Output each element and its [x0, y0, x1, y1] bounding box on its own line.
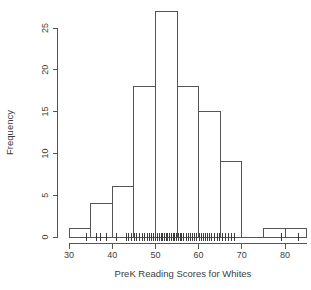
- x-tick-label: 40: [107, 250, 117, 260]
- x-tick-label: 80: [280, 250, 290, 260]
- y-tick-label: 25: [40, 23, 50, 33]
- plot-render-layer: 0510152025304050607080: [40, 11, 307, 260]
- x-axis-title: PreK Reading Scores for Whites: [115, 268, 252, 279]
- histogram-bar: [91, 204, 113, 237]
- histogram-bar: [199, 112, 221, 237]
- histogram-bar: [177, 87, 199, 237]
- histogram-bar: [155, 11, 177, 237]
- histogram-bar: [112, 187, 134, 237]
- r-plot-figure: 0510152025304050607080 PreK Reading Scor…: [0, 0, 311, 290]
- histogram-bar: [69, 229, 91, 237]
- y-tick-label: 0: [40, 234, 50, 239]
- x-tick-label: 50: [150, 250, 160, 260]
- histogram-bar: [134, 87, 156, 237]
- y-tick-label: 5: [40, 193, 50, 198]
- x-tick-label: 30: [64, 250, 74, 260]
- x-tick-label: 70: [237, 250, 247, 260]
- x-tick-label: 60: [194, 250, 204, 260]
- y-axis-title: Frequency: [4, 110, 15, 155]
- histogram-bar: [285, 229, 307, 237]
- y-tick-label: 10: [40, 148, 50, 158]
- histogram-bar: [220, 162, 242, 237]
- histogram-plot: 0510152025304050607080 PreK Reading Scor…: [0, 0, 311, 290]
- y-tick-label: 20: [40, 65, 50, 75]
- y-tick-label: 15: [40, 107, 50, 117]
